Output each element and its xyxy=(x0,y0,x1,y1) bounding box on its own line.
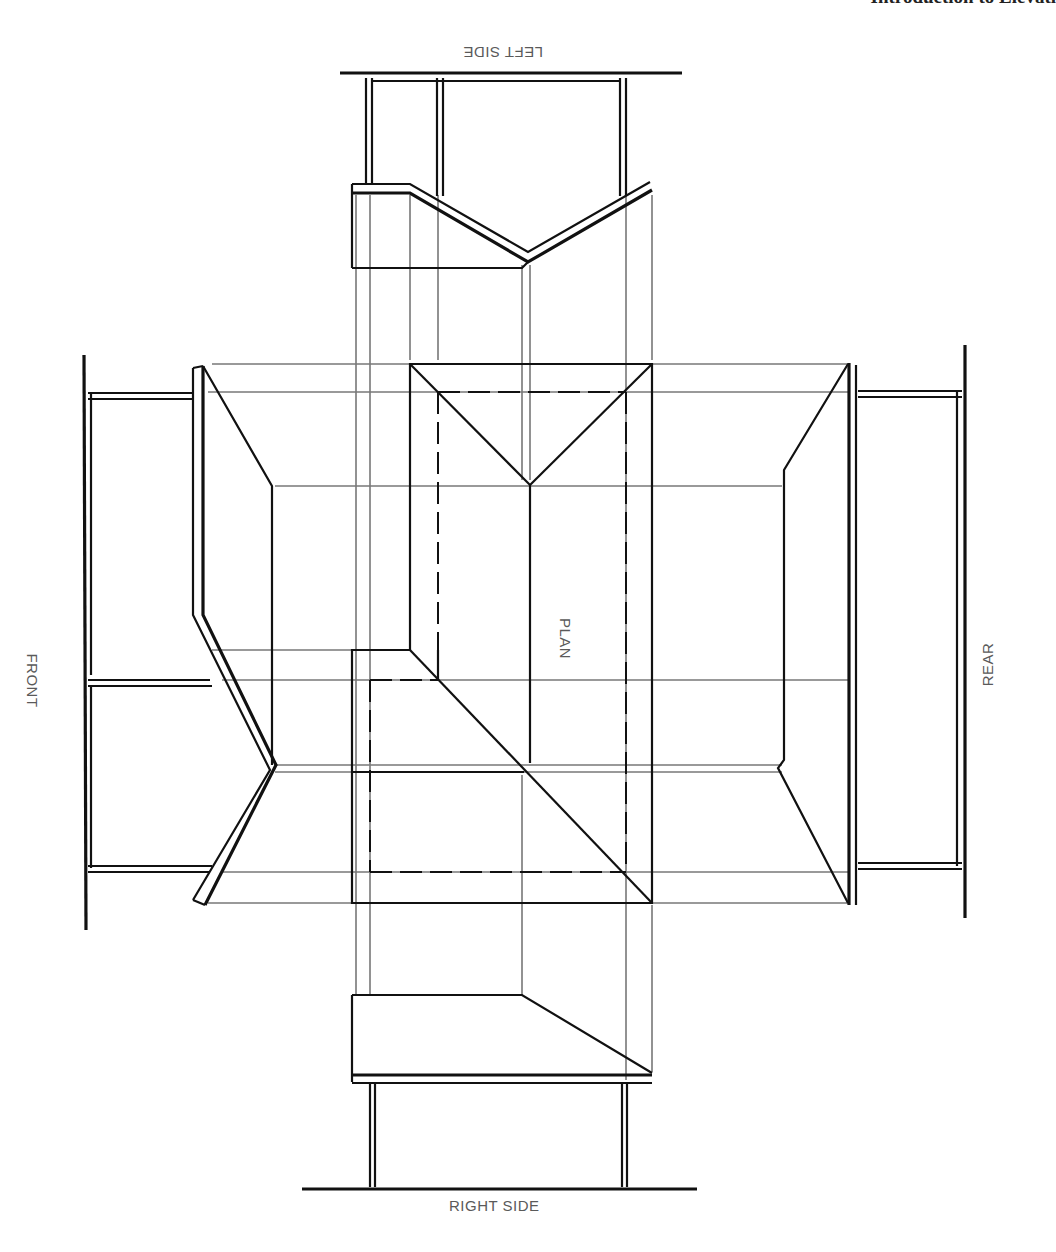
front-elevation xyxy=(84,355,276,930)
roof-plan xyxy=(352,364,652,903)
orthographic-projection-drawing xyxy=(0,0,1056,1252)
left-side-label: LEFT SIDE xyxy=(463,44,543,61)
ground-line xyxy=(84,355,86,930)
rear-elevation xyxy=(778,345,965,918)
front-label: FRONT xyxy=(24,653,41,707)
rear-label: REAR xyxy=(979,643,996,687)
right-side-label: RIGHT SIDE xyxy=(449,1197,540,1214)
projection-lines xyxy=(208,195,848,1080)
plan-label: PLAN xyxy=(557,618,574,659)
right-side-elevation xyxy=(302,995,697,1189)
left-side-elevation xyxy=(340,73,682,268)
